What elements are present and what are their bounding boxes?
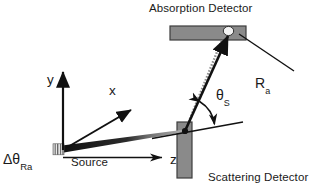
source-label: Source [71,157,108,169]
ra-label: Ra [255,76,270,94]
ra-leader-line [239,34,294,71]
absorption-impact-spot [223,26,233,35]
z-axis-label: z [170,153,177,167]
delta-theta-subscript: Ra [20,161,32,172]
absorption-detector-bar [170,26,246,40]
ra-subscript: a [265,86,270,96]
scattering-point-marker [182,128,188,134]
scattering-geometry-diagram [0,0,317,193]
scattered-beam [185,36,228,131]
delta-theta-symbol: Δθ [3,151,20,167]
theta-s-label: θS [216,88,230,106]
theta-s-symbol: θ [216,87,224,103]
theta-s-subscript: S [224,98,230,108]
x-axis-label: x [109,84,116,98]
figure-canvas: Absorption Detector Scattering Detector … [0,0,317,193]
ra-symbol: R [255,75,265,91]
sample-plane-line [152,122,243,139]
y-axis-label: y [47,73,54,87]
scattering-detector-label: Scattering Detector [208,172,308,184]
incident-beam [64,130,185,153]
absorption-detector-label: Absorption Detector [149,3,253,15]
theta-s-angle-arc [200,102,215,125]
delta-theta-ra-label: ΔθRa [3,152,32,169]
